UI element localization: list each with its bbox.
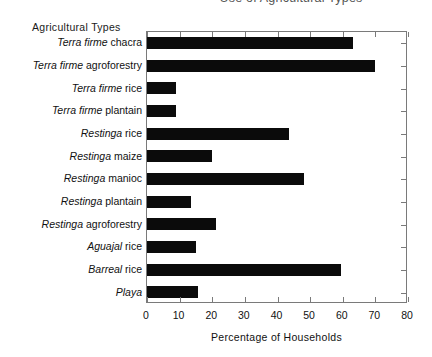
x-axis-tick [212,32,213,37]
x-axis-title: Percentage of Households [146,331,407,343]
x-axis-tick-labels: 01020304050607080 [146,309,407,323]
y-axis-tick-label: Terra firme chacra [0,36,142,48]
x-axis-tick-label: 20 [196,309,226,321]
y-axis-tick-label: Terra firme rice [0,82,142,94]
x-axis-tick [375,32,376,37]
y-axis-tick-label: Restinga agroforestry [0,218,142,230]
bar [147,105,176,117]
y-axis-tick [401,66,406,67]
bar [147,241,196,253]
x-axis-tick [245,32,246,37]
y-axis-tick-label: Restinga plantain [0,195,142,207]
y-axis-tick [401,179,406,180]
bar-row [147,191,406,214]
x-axis-tick-label: 0 [131,309,161,321]
bar [147,264,341,276]
y-axis-tick [401,270,406,271]
y-axis-tick-label: Restinga rice [0,127,142,139]
bar [147,37,353,49]
bar-row [147,32,406,55]
x-axis-tick [408,32,409,37]
chart-title: Use of Agricultural Types [150,0,432,5]
x-axis-tick [245,297,246,302]
x-axis-tick [408,297,409,302]
bar-row [147,123,406,146]
bar-row [147,145,406,168]
x-axis-tick-label: 80 [392,309,422,321]
x-axis-tick [212,297,213,302]
y-axis-tick-label: Playa [0,286,142,298]
y-axis-tick [401,89,406,90]
y-axis-tick [401,157,406,158]
bar [147,173,304,185]
bar-row [147,100,406,123]
bar-row [147,259,406,282]
bar [147,82,176,94]
bar-chart-figure: Use of Agricultural Types Agricultural T… [0,0,432,357]
x-axis-tick [343,297,344,302]
y-axis-tick-label: Restinga maize [0,150,142,162]
x-axis-tick-label: 30 [229,309,259,321]
x-axis-tick [278,297,279,302]
y-axis-tick [401,225,406,226]
y-axis-tick [401,202,406,203]
y-axis-tick [401,247,406,248]
bar [147,218,216,230]
y-axis-tick [401,134,406,135]
x-axis-tick [343,32,344,37]
x-axis-tick [180,297,181,302]
bar-row [147,77,406,100]
x-axis-tick-label: 10 [164,309,194,321]
bar [147,286,198,298]
y-axis-tick-label: Restinga manioc [0,172,142,184]
y-axis-tick [401,293,406,294]
x-axis-tick [310,32,311,37]
bar [147,196,191,208]
x-axis-tick [147,32,148,37]
bar-row [147,213,406,236]
y-axis-tick-label: Barreal rice [0,263,142,275]
bar-row [147,168,406,191]
x-axis-tick [278,32,279,37]
x-axis-tick-label: 60 [327,309,357,321]
x-axis-tick-label: 70 [359,309,389,321]
bar-row [147,55,406,78]
x-axis-tick [147,297,148,302]
y-axis-tick [401,111,406,112]
bar-row [147,281,406,304]
bar [147,128,289,140]
plot-area [146,31,407,303]
bar [147,60,375,72]
x-axis-tick [310,297,311,302]
y-axis-tick-label: Terra firme agroforestry [0,59,142,71]
y-axis-tick [401,43,406,44]
x-axis-tick-label: 50 [294,309,324,321]
bar-row [147,236,406,259]
x-axis-tick [375,297,376,302]
x-axis-tick-label: 40 [262,309,292,321]
y-axis-tick-label: Terra firme plantain [0,104,142,116]
y-axis-tick-labels: Terra firme chacraTerra firme agroforest… [0,31,142,303]
x-axis-tick [180,32,181,37]
y-axis-tick-label: Aguajal rice [0,240,142,252]
bar [147,150,212,162]
